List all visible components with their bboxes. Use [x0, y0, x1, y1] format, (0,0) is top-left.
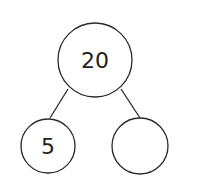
connector-left	[50, 89, 68, 118]
whole-value: 20	[81, 48, 109, 73]
number-bond-diagram: 20 5	[0, 0, 200, 191]
part-circle-right[interactable]	[112, 118, 168, 174]
part-value-left: 5	[41, 134, 55, 159]
connector-right	[121, 89, 140, 118]
